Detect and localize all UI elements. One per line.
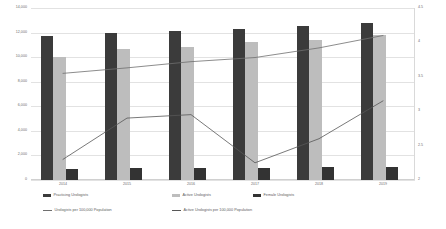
bar-active-urologists-2016 <box>181 47 193 180</box>
gridline <box>31 106 415 107</box>
x-axis-tick-label: 2014 <box>31 183 95 187</box>
gridline <box>31 57 415 58</box>
bar-active-urologists-2015 <box>117 49 129 180</box>
legend-line-swatch-icon <box>43 210 52 211</box>
legend-line-swatch-icon <box>172 210 181 211</box>
legend-item-active-urologists[interactable]: Active Urologists <box>172 194 211 198</box>
gridline <box>31 33 415 34</box>
legend-item-practicing-urologists[interactable]: Practicing Urologists <box>43 194 88 198</box>
bar-practicing-urologists-2017 <box>233 29 245 180</box>
bar-practicing-urologists-2019 <box>361 23 373 180</box>
y-axis-tick-label: 10,000 <box>1 55 27 59</box>
bar-practicing-urologists-2018 <box>297 26 309 180</box>
bar-female-urologists-2015 <box>130 168 142 180</box>
x-axis-tick-label: 2016 <box>159 183 223 187</box>
legend-item-active-urologists-per-100-000-population[interactable]: Active Urologists per 100,000 Population <box>172 209 252 213</box>
bar-female-urologists-2018 <box>322 167 334 180</box>
legend-item-female-urologists[interactable]: Female Urologists <box>253 194 294 198</box>
x-axis-tick-label: 2017 <box>223 183 287 187</box>
gridline <box>31 131 415 132</box>
bar-active-urologists-2014 <box>53 57 65 180</box>
secondary-y-axis-tick-label: 2 <box>418 178 442 182</box>
bar-female-urologists-2019 <box>386 167 398 181</box>
y-axis-tick-label: 0 <box>1 178 27 182</box>
secondary-axis-line <box>414 8 415 180</box>
plot-area <box>31 8 415 180</box>
gridline <box>31 82 415 83</box>
x-axis-baseline <box>31 179 415 180</box>
legend-bar-swatch-icon <box>253 194 261 197</box>
legend-bar-swatch-icon <box>172 194 180 197</box>
secondary-y-axis-tick-label: 3 <box>418 109 442 113</box>
bar-active-urologists-2019 <box>373 35 385 180</box>
bar-female-urologists-2016 <box>194 168 206 180</box>
legend-item-label: Female Urologists <box>264 194 295 198</box>
gridline <box>31 8 415 9</box>
chart-legend: Practicing UrologistsActive UrologistsFe… <box>0 192 446 228</box>
y-axis-tick-label: 8,000 <box>1 80 27 84</box>
y-axis-tick-label: 6,000 <box>1 104 27 108</box>
urology-workforce-chart: 02,0004,0006,0008,00010,00012,00014,000 … <box>0 0 446 229</box>
bar-female-urologists-2014 <box>66 169 78 180</box>
legend-item-label: Urologists per 100,000 Population <box>55 209 112 213</box>
gridline <box>31 155 415 156</box>
x-axis-tick-label: 2018 <box>287 183 351 187</box>
legend-item-label: Practicing Urologists <box>54 194 89 198</box>
secondary-y-axis-tick-label: 4 <box>418 40 442 44</box>
bar-practicing-urologists-2015 <box>105 33 117 180</box>
bar-female-urologists-2017 <box>258 168 270 180</box>
legend-bar-swatch-icon <box>43 194 51 197</box>
legend-item-label: Active Urologists <box>183 194 211 198</box>
x-axis-tick-label: 2015 <box>95 183 159 187</box>
gridline <box>31 180 415 181</box>
bar-active-urologists-2017 <box>245 42 257 180</box>
bar-active-urologists-2018 <box>309 40 321 180</box>
x-axis-tick-label: 2019 <box>351 183 415 187</box>
secondary-y-axis-tick-label: 3.5 <box>418 75 442 79</box>
bar-practicing-urologists-2014 <box>41 36 53 180</box>
legend-item-urologists-per-100-000-population[interactable]: Urologists per 100,000 Population <box>43 209 112 213</box>
y-axis-tick-label: 12,000 <box>1 31 27 35</box>
secondary-y-axis-tick-label: 2.5 <box>418 144 442 148</box>
bar-practicing-urologists-2016 <box>169 31 181 180</box>
secondary-y-axis-tick-label: 4.5 <box>418 6 442 10</box>
legend-item-label: Active Urologists per 100,000 Population <box>184 209 253 213</box>
y-axis-tick-label: 14,000 <box>1 6 27 10</box>
y-axis-tick-label: 2,000 <box>1 153 27 157</box>
y-axis-tick-label: 4,000 <box>1 129 27 133</box>
